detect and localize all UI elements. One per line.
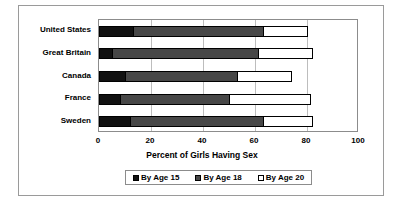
legend-swatch-icon xyxy=(258,175,264,181)
stacked-bar xyxy=(99,116,313,127)
x-tick-label: 20 xyxy=(146,136,155,145)
bar-row xyxy=(99,43,357,66)
bar-segment xyxy=(229,94,311,105)
bar-segment xyxy=(99,71,126,82)
bar-row xyxy=(99,88,357,111)
stacked-bar xyxy=(99,26,308,37)
legend-swatch-icon xyxy=(133,175,139,181)
x-tick-label: 60 xyxy=(250,136,259,145)
bar-series-group xyxy=(99,20,357,131)
legend-label: By Age 20 xyxy=(266,173,304,182)
bar-segment xyxy=(263,26,308,37)
bar-row xyxy=(99,110,357,133)
bar-segment xyxy=(237,71,293,82)
legend-label: By Age 15 xyxy=(141,173,179,182)
bar-segment xyxy=(130,116,264,127)
chart-legend: By Age 15By Age 18By Age 20 xyxy=(125,170,312,185)
x-tick-label: 80 xyxy=(302,136,311,145)
x-tick-label: 0 xyxy=(96,136,100,145)
bar-segment xyxy=(133,26,264,37)
legend-swatch-icon xyxy=(195,175,201,181)
bar-segment xyxy=(125,71,238,82)
plot-area xyxy=(98,19,358,132)
bar-segment xyxy=(99,116,131,127)
bar-segment xyxy=(120,94,230,105)
chart-figure: United StatesGreat BritainCanadaFranceSw… xyxy=(18,5,384,196)
x-axis-title: Percent of Girls Having Sex xyxy=(19,150,385,160)
bar-segment xyxy=(99,94,121,105)
bar-segment xyxy=(112,48,259,59)
bar-segment xyxy=(263,116,313,127)
legend-item[interactable]: By Age 15 xyxy=(133,173,179,182)
x-tick-label: 40 xyxy=(198,136,207,145)
bar-segment xyxy=(99,48,113,59)
category-label: Sweden xyxy=(61,117,91,125)
x-tick-label: 100 xyxy=(351,136,364,145)
category-label: Canada xyxy=(62,72,91,80)
category-label: United States xyxy=(40,26,91,34)
category-label: France xyxy=(65,94,91,102)
legend-item[interactable]: By Age 18 xyxy=(195,173,241,182)
bar-row xyxy=(99,65,357,88)
category-label: Great Britain xyxy=(43,49,91,57)
bar-segment xyxy=(99,26,134,37)
legend-label: By Age 18 xyxy=(203,173,241,182)
bar-row xyxy=(99,20,357,43)
bar-segment xyxy=(258,48,314,59)
legend-item[interactable]: By Age 20 xyxy=(258,173,304,182)
stacked-bar xyxy=(99,48,313,59)
stacked-bar xyxy=(99,94,311,105)
stacked-bar xyxy=(99,71,292,82)
